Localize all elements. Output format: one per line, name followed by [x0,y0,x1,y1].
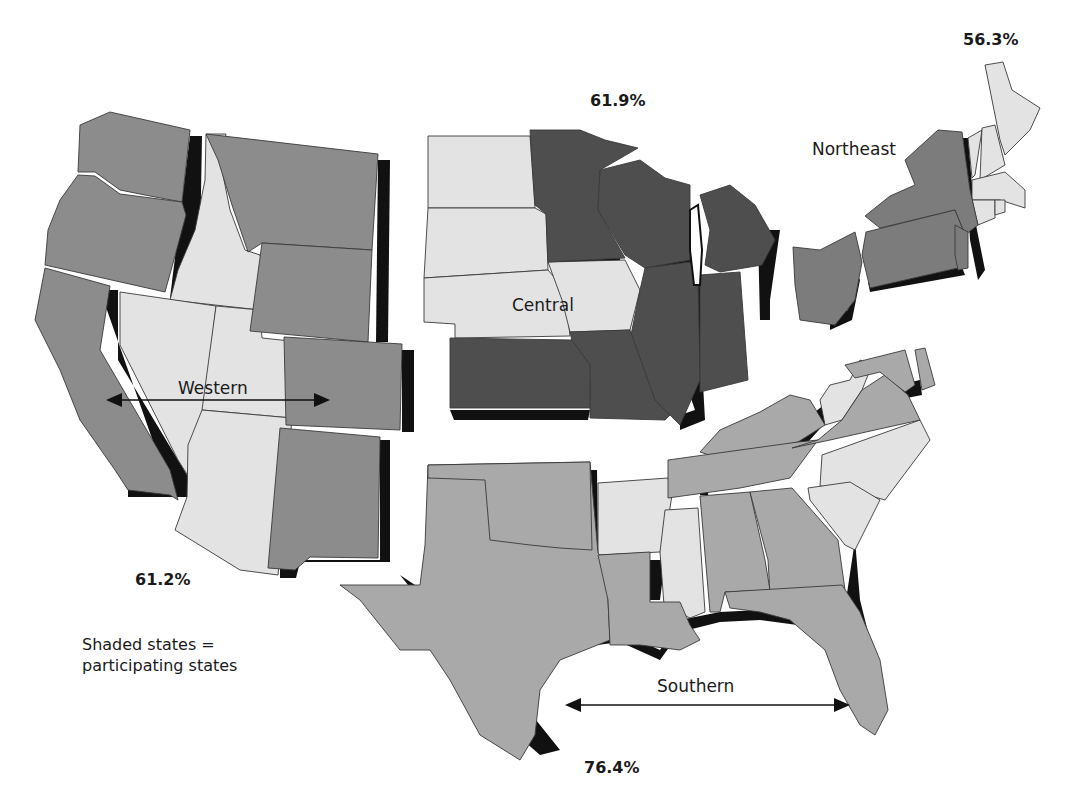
state-south-dakota [424,208,548,278]
region-western [35,112,414,578]
state-mississippi [660,508,705,618]
southern-region-label: Southern [657,676,734,696]
lake-michigan [690,205,702,285]
southern-percent-label: 76.4% [584,758,640,777]
us-regions-map [0,0,1089,801]
western-region-label: Western [178,378,248,398]
central-percent-label: 61.9% [590,91,646,110]
northeast-percent-label: 56.3% [963,30,1019,49]
region-central [424,130,780,430]
western-percent-label: 61.2% [135,570,191,589]
state-wyoming [250,243,372,342]
central-region-label: Central [512,295,574,315]
state-colorado [284,337,402,430]
southern-arrow [565,698,850,712]
state-indiana [700,272,748,392]
state-north-dakota [428,136,535,208]
state-kansas [450,338,590,408]
legend-line-2: participating states [82,655,237,676]
legend: Shaded states = participating states [82,634,237,676]
state-michigan [700,185,775,272]
state-new-mexico [268,428,380,570]
legend-line-1: Shaded states = [82,634,237,655]
state-rhode-island [995,200,1005,215]
region-northeast [793,62,1040,330]
state-florida [725,585,888,735]
northeast-region-label: Northeast [812,139,896,159]
state-new-jersey [955,225,968,270]
